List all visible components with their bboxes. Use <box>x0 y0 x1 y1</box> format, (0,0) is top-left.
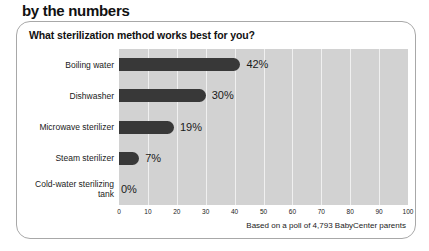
bar-row: 42% <box>119 58 408 71</box>
x-tick-label: 80 <box>347 208 354 215</box>
x-tick-label: 60 <box>289 208 296 215</box>
x-tick-label: 70 <box>318 208 325 215</box>
x-tick-label: 50 <box>260 208 267 215</box>
infographic-page: by the numbers What sterilization method… <box>0 0 429 251</box>
x-tick-label: 10 <box>144 208 151 215</box>
x-tick-label: 40 <box>231 208 238 215</box>
bar-row: 0% <box>119 183 408 196</box>
x-tick-label: 100 <box>403 208 414 215</box>
bar-row: 30% <box>119 89 408 102</box>
x-tick-label: 0 <box>117 208 121 215</box>
bar-value-label: 19% <box>180 121 202 134</box>
bar-value-label: 30% <box>212 89 234 102</box>
x-tick-label: 90 <box>375 208 382 215</box>
category-label: Cold-water sterilizing tank <box>26 179 114 199</box>
category-label: Dishwasher <box>26 91 114 101</box>
category-axis-labels: Boiling waterDishwasherMicrowave sterili… <box>26 49 118 205</box>
page-title: by the numbers <box>22 2 130 19</box>
plot-area: 42%30%19%7%0% <box>119 49 408 205</box>
bar-value-label: 42% <box>246 58 268 71</box>
category-label: Boiling water <box>26 60 114 70</box>
bar-row: 7% <box>119 152 408 165</box>
bar-value-label: 7% <box>145 152 161 165</box>
x-tick-label: 20 <box>173 208 180 215</box>
value-axis-labels: 0102030405060708090100 <box>119 206 408 220</box>
chart-question-title: What sterilization method works best for… <box>29 29 255 41</box>
bar-row: 19% <box>119 121 408 134</box>
category-label: Microwave sterilizer <box>26 122 114 132</box>
category-label: Steam sterilizer <box>26 153 114 163</box>
bar-chart: Boiling waterDishwasherMicrowave sterili… <box>26 49 408 229</box>
bar <box>119 152 139 165</box>
source-note: Based on a poll of 4,793 BabyCenter pare… <box>246 221 406 230</box>
bar-value-label: 0% <box>121 183 137 196</box>
chart-card: What sterilization method works best for… <box>16 21 416 239</box>
bar <box>119 58 240 71</box>
bar <box>119 121 174 134</box>
x-tick-label: 30 <box>202 208 209 215</box>
bar <box>119 89 206 102</box>
